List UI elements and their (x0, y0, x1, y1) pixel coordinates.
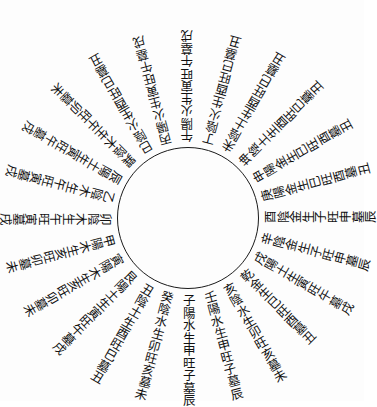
center-circle (117, 147, 259, 289)
spoke-text: 卯陰木生午旺寅墓戌 (0, 212, 112, 225)
spoke-text: 午陽火生寅旺午墓戌 (182, 30, 195, 143)
spoke-text: 子陽水生申旺子墓辰 (182, 294, 195, 407)
spoke-text: 酉陰金生子旺申墓辰 (264, 212, 377, 225)
